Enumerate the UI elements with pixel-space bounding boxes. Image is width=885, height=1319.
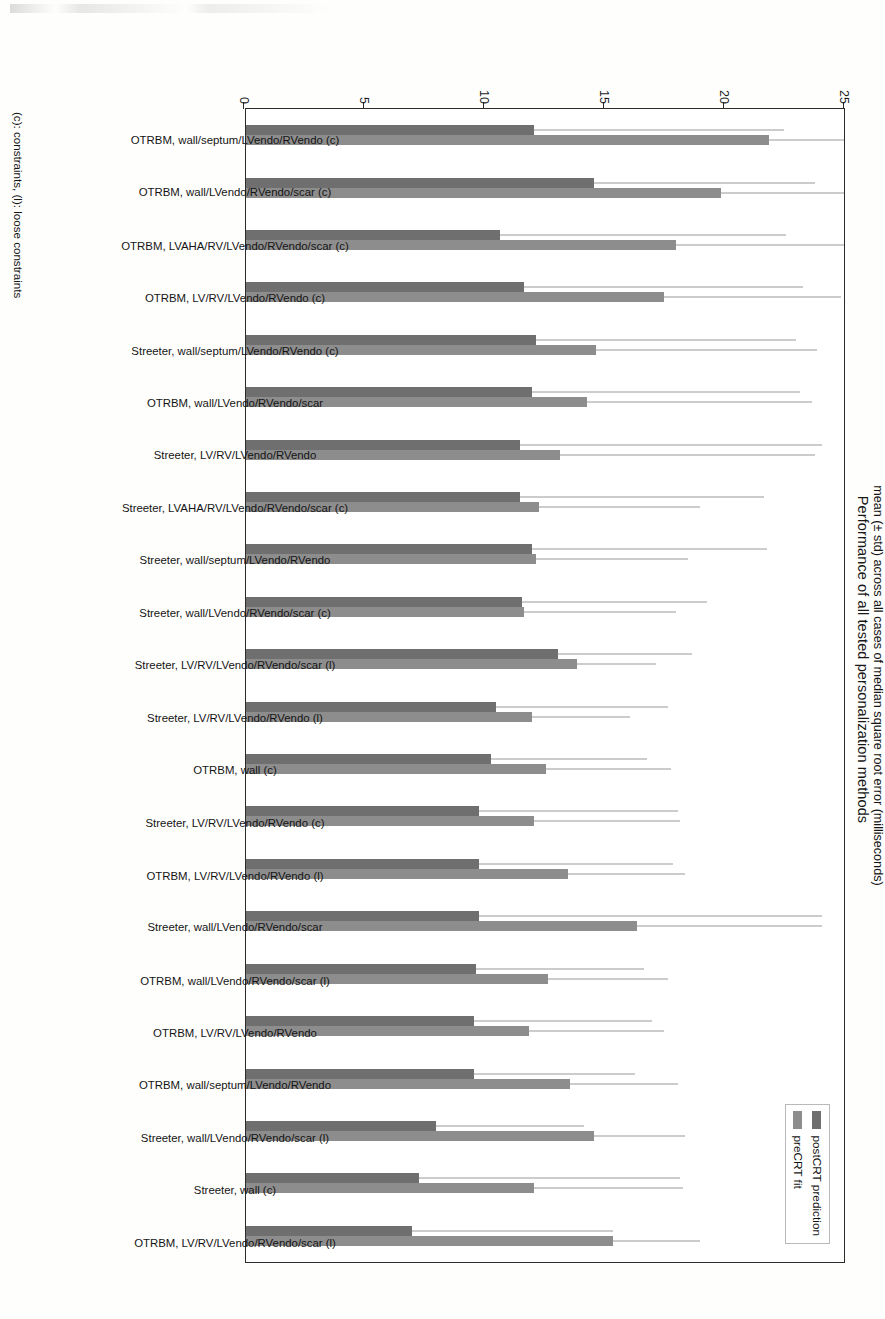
error-bar <box>587 402 813 403</box>
error-bar <box>536 559 687 560</box>
category-label: Streeter, wall (c) <box>7 1158 239 1211</box>
error-bar <box>491 759 647 760</box>
bar-group <box>246 843 844 895</box>
bar-group <box>246 948 844 1000</box>
error-bar <box>436 1125 585 1126</box>
error-bar <box>560 454 814 455</box>
bar-slot <box>246 764 844 774</box>
chart-legend: postCRT predictionpreCRT fit <box>785 1104 830 1244</box>
error-bar <box>479 916 822 917</box>
bar-group <box>246 895 844 947</box>
bar-slot <box>246 1016 844 1026</box>
error-bar <box>769 140 844 141</box>
error-bar <box>474 1073 635 1074</box>
legend-item[interactable]: postCRT prediction <box>810 1111 824 1236</box>
category-label: Streeter, LV/RV/LVendo/RVendo (c) <box>7 791 239 844</box>
error-bar <box>613 1240 699 1241</box>
category-label: OTRBM, LV/RV/LVendo/RVendo (c) <box>7 266 239 319</box>
legend-label: preCRT fit <box>791 1135 805 1188</box>
error-bar <box>534 1188 683 1189</box>
category-label: OTRBM, wall/LVendo/RVendo/scar <box>7 371 239 424</box>
axis-tick-label: 10 <box>477 90 491 104</box>
chart-footnote: (c): constraints, (l): loose constraints <box>12 112 25 298</box>
bar-slot <box>246 974 844 984</box>
bar-slot <box>246 816 844 826</box>
error-bar <box>596 349 817 350</box>
chart-figure: Performance of all tested personalizatio… <box>0 0 885 1319</box>
error-bar <box>548 978 668 979</box>
bar-group <box>246 1157 844 1209</box>
bar-group <box>246 790 844 842</box>
axis-tick-label: 15 <box>597 90 611 104</box>
category-label: Streeter, wall/LVendo/RVendo/scar (l) <box>7 1106 239 1159</box>
category-label: Streeter, wall/septum/LVendo/RVendo <box>7 528 239 581</box>
legend-swatch-icon <box>813 1111 822 1129</box>
category-label: OTRBM, wall/septum/LVendo/RVendo <box>7 1053 239 1106</box>
category-label: OTRBM, wall (c) <box>7 738 239 791</box>
category-label: OTRBM, LV/RV/LVendo/RVendo <box>7 1001 239 1054</box>
category-label: Streeter, LV/RV/LVendo/RVendo/scar (l) <box>7 633 239 686</box>
axis-tick-label: 25 <box>837 90 851 104</box>
category-label: Streeter, wall/LVendo/RVendo/scar (c) <box>7 581 239 634</box>
bar-slot <box>246 1183 844 1193</box>
error-bar <box>500 235 786 236</box>
error-bar <box>532 549 767 550</box>
error-bar <box>546 769 671 770</box>
bar-slot <box>246 869 844 879</box>
legend-swatch-icon <box>794 1111 803 1129</box>
error-bar <box>558 654 692 655</box>
error-bar <box>524 611 675 612</box>
error-bar <box>419 1178 681 1179</box>
error-bar <box>479 863 673 864</box>
error-bar <box>496 706 669 707</box>
bar-slot <box>246 859 844 869</box>
category-label: Streeter, LV/RV/LVendo/RVendo (l) <box>7 686 239 739</box>
bar-slot <box>246 1121 844 1131</box>
error-bar <box>594 182 815 183</box>
error-bar <box>594 1135 685 1136</box>
bar-slot <box>246 1069 844 1079</box>
error-bar <box>524 287 802 288</box>
value-axis-title: mean (± std) across all cases of median … <box>871 108 885 1263</box>
error-bar <box>568 873 686 874</box>
error-bar <box>529 1031 663 1032</box>
error-bar <box>534 130 784 131</box>
error-bar <box>721 192 843 193</box>
category-label: Streeter, LVAHA/RV/LVendo/RVendo/scar (c… <box>7 476 239 529</box>
axis-tick-label: 20 <box>717 90 731 104</box>
bar-slot <box>246 1131 844 1141</box>
category-label: OTRBM, LVAHA/RV/LVendo/RVendo/scar (c) <box>7 213 239 266</box>
error-bar <box>532 392 801 393</box>
bar-group <box>246 1000 844 1052</box>
error-bar <box>520 444 822 445</box>
figure-page: Performance of all tested personalizatio… <box>0 0 885 1319</box>
bar-group <box>246 738 844 790</box>
error-bar <box>532 716 630 717</box>
bar-slot <box>246 921 844 931</box>
bar-slot <box>246 911 844 921</box>
error-bar <box>570 1083 678 1084</box>
bar-slot <box>246 754 844 764</box>
axis-tick-label: 5 <box>357 97 371 104</box>
category-label: OTRBM, wall/LVendo/RVendo/scar (c) <box>7 161 239 214</box>
bar-slot <box>246 1026 844 1036</box>
bar-group <box>246 1052 844 1104</box>
bar-slot <box>246 806 844 816</box>
legend-item[interactable]: preCRT fit <box>791 1111 805 1236</box>
error-bar <box>522 601 707 602</box>
axis-tick-label: 0 <box>237 97 251 104</box>
bar-slot <box>246 1173 844 1183</box>
bar-slot <box>246 1079 844 1089</box>
legend-label: postCRT prediction <box>810 1135 824 1236</box>
category-label: Streeter, LV/RV/LVendo/RVendo <box>7 423 239 476</box>
error-bar <box>539 507 700 508</box>
category-label: OTRBM, wall/LVendo/RVendo/scar (l) <box>7 948 239 1001</box>
bar-slot <box>246 964 844 974</box>
error-bar <box>476 968 644 969</box>
error-bar <box>412 1230 614 1231</box>
error-bar <box>664 297 842 298</box>
chart-title: Performance of all tested personalizatio… <box>855 0 871 1319</box>
category-label: Streeter, wall/septum/LVendo/RVendo (c) <box>7 318 239 371</box>
category-label: OTRBM, wall/septum/LVendo/RVendo (c) <box>7 108 239 161</box>
category-label: OTRBM, LV/RV/LVendo/RVendo/scar (l) <box>7 1211 239 1264</box>
